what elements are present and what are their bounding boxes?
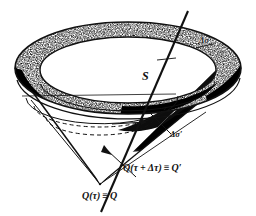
label-delta-sigma-prime: Δσ′: [170, 130, 182, 139]
figure-root: S Δσ Δσ′ Q(τ + Δτ) ≡ Q′ Q(τ) ≡ Q: [0, 0, 256, 216]
cone-apex: [99, 183, 101, 185]
label-surface-S: S: [142, 70, 149, 82]
label-q: Q(τ) ≡ Q: [82, 191, 117, 201]
label-q-prime: Q(τ + Δτ) ≡ Q′: [123, 163, 181, 173]
label-delta-sigma: Δσ: [199, 36, 209, 45]
light-cone-diagram: [0, 0, 256, 216]
